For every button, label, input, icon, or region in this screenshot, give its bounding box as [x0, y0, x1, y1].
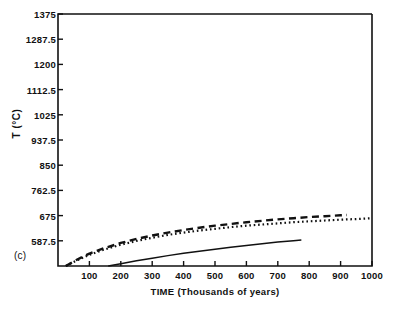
- y-tick-label: 1200: [10, 59, 56, 70]
- y-tick-label: 1287.5: [10, 34, 56, 45]
- chart-plot-area: [0, 0, 400, 309]
- y-tick-label: 850: [10, 160, 56, 171]
- curve-solid: [108, 240, 301, 266]
- curve-dashed: [66, 215, 347, 266]
- chart-figure: 587.5675762.5850937.510251112.512001287.…: [0, 0, 400, 309]
- y-tick-label: 587.5: [10, 235, 56, 246]
- y-tick-label: 675: [10, 210, 56, 221]
- curve-dotted: [66, 218, 372, 266]
- data-series-layer: [66, 215, 372, 266]
- x-axis-title: TIME (Thousands of years): [58, 286, 372, 297]
- y-axis-title: T (°C): [11, 94, 22, 154]
- y-axis-tick-labels: 587.5675762.5850937.510251112.512001287.…: [0, 0, 56, 309]
- x-tick-label: 1000: [352, 270, 392, 281]
- y-tick-label: 762.5: [10, 185, 56, 196]
- y-tick-label: 1375: [10, 9, 56, 20]
- panel-label: (c): [14, 250, 26, 261]
